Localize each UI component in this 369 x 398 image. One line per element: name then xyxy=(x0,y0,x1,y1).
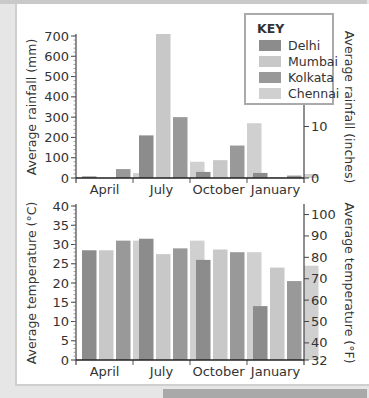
temp-y2tick-label: 80 xyxy=(311,250,328,265)
rain-xtick-label: January xyxy=(250,182,301,197)
rain-y2-axis-label: Average rainfall (inches) xyxy=(342,31,357,184)
temp-bar-delhi-january xyxy=(253,306,268,360)
temp-ytick-label: 30 xyxy=(52,237,69,252)
rain-ytick-label: 600 xyxy=(44,49,69,64)
temp-ytick-label: 0 xyxy=(61,353,69,368)
rain-y-axis-label: Average rainfall (mm) xyxy=(24,39,39,176)
legend-label-delhi: Delhi xyxy=(288,38,320,53)
temp-bar-mumbai-july xyxy=(156,254,171,360)
temp-y2tick-label: 100 xyxy=(311,207,336,222)
rain-xtick-label: July xyxy=(149,182,174,197)
rain-ytick-label: 0 xyxy=(61,171,69,186)
temp-y2-axis-label: Average temperature (°F) xyxy=(342,202,357,363)
temp-ytick-label: 20 xyxy=(52,276,69,291)
temp-bar-delhi-october xyxy=(196,260,211,360)
legend-swatch-chennai xyxy=(259,88,281,99)
temp-y2tick-label: 70 xyxy=(311,271,328,286)
rain-y2tick-label: 10 xyxy=(311,119,328,134)
rain-ytick-label: 500 xyxy=(44,69,69,84)
rain-bar-kolkata-april xyxy=(116,169,131,178)
legend: KEY DelhiMumbaiKolkataChennai xyxy=(245,14,339,104)
rain-xtick-label: April xyxy=(90,182,120,197)
rain-bar-chennai-october xyxy=(247,123,262,178)
temp-y2tick-label: 40 xyxy=(311,335,328,350)
temp-bar-mumbai-october xyxy=(213,250,228,360)
temp-ytick-label: 5 xyxy=(61,333,69,348)
temp-bar-mumbai-april xyxy=(99,250,114,360)
rain-bar-delhi-january xyxy=(253,173,268,178)
temp-bar-kolkata-april xyxy=(116,241,131,360)
temp-ytick-label: 40 xyxy=(52,199,69,214)
legend-swatch-kolkata xyxy=(259,72,281,83)
legend-label-mumbai: Mumbai xyxy=(288,54,338,69)
rain-xtick-label: October xyxy=(192,182,245,197)
rain-ytick-label: 200 xyxy=(44,130,69,145)
rain-ytick-label: 100 xyxy=(44,150,69,165)
temp-ytick-label: 25 xyxy=(52,256,69,271)
temp-bar-mumbai-january xyxy=(270,268,285,360)
legend-swatch-delhi xyxy=(259,40,281,51)
temp-ytick-label: 35 xyxy=(52,218,69,233)
temp-y2tick-label: 90 xyxy=(311,228,328,243)
rain-ytick-label: 700 xyxy=(44,29,69,44)
temp-y2tick-label: 50 xyxy=(311,314,328,329)
rain-y2tick-label: 0 xyxy=(311,171,319,186)
temp-bar-kolkata-july xyxy=(173,248,188,360)
temp-xtick-label: January xyxy=(250,364,301,379)
temp-y-axis-label: Average temperature (°C) xyxy=(24,202,39,365)
rain-bar-delhi-july xyxy=(139,135,154,178)
rain-ytick-label: 400 xyxy=(44,89,69,104)
legend-label-kolkata: Kolkata xyxy=(288,70,334,85)
temp-bar-delhi-july xyxy=(139,239,154,360)
temp-y2tick-label: 60 xyxy=(311,293,328,308)
temp-bar-delhi-april xyxy=(82,250,97,360)
temp-ytick-label: 10 xyxy=(52,314,69,329)
temp-bar-kolkata-october xyxy=(230,252,245,360)
rain-bar-delhi-october xyxy=(196,172,211,178)
legend-label-chennai: Chennai xyxy=(288,86,339,101)
temp-ytick-label: 15 xyxy=(52,295,69,310)
rain-bar-mumbai-july xyxy=(156,34,171,178)
rain-bar-kolkata-july xyxy=(173,117,188,178)
temp-xtick-label: July xyxy=(149,364,174,379)
temp-bar-kolkata-january xyxy=(287,281,302,360)
legend-title: KEY xyxy=(257,21,285,36)
rain-bar-mumbai-october xyxy=(213,160,228,178)
legend-swatch-mumbai xyxy=(259,56,281,67)
temp-xtick-label: April xyxy=(90,364,120,379)
rain-ytick-label: 300 xyxy=(44,110,69,125)
temp-y2tick-label: 32 xyxy=(311,353,328,368)
temp-xtick-label: October xyxy=(192,364,245,379)
rain-bar-kolkata-october xyxy=(230,146,245,178)
temperature-chart: AprilJulyOctoberJanuary05101520253035403… xyxy=(24,199,357,380)
